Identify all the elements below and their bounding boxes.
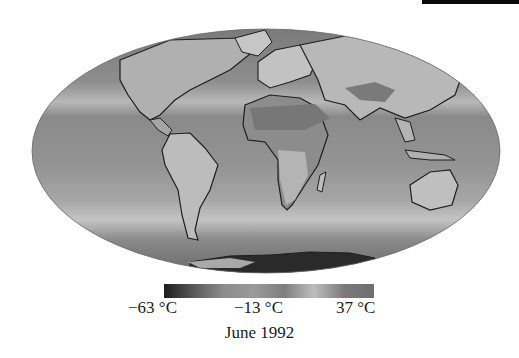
colorbar-max-label: 37 °C (336, 298, 375, 318)
colorbar-min-label: −63 °C (128, 298, 177, 318)
world-temperature-map (0, 0, 519, 290)
temperature-colorbar (164, 284, 374, 298)
colorbar-fill (164, 284, 374, 298)
colorbar-mid-label: −13 °C (234, 298, 283, 318)
figure-caption: June 1992 (0, 323, 519, 343)
